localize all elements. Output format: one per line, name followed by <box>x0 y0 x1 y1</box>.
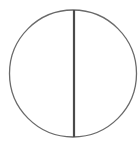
bisected-circle-diagram <box>0 0 140 145</box>
